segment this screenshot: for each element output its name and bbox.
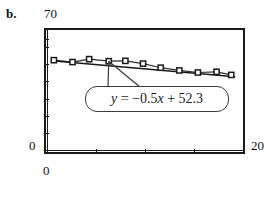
data-point-marker <box>177 68 182 73</box>
regression-equation-callout: y = −0.5x + 52.3 <box>85 86 229 112</box>
data-point-marker <box>87 57 92 62</box>
data-point-marker <box>214 69 219 74</box>
data-point-marker <box>195 70 200 75</box>
data-point-marker <box>140 61 145 66</box>
data-point-marker <box>123 58 128 63</box>
chart-figure: b. 70 0 0 20 y = −0.5x + 52.3 <box>0 0 276 197</box>
callout-pointer-edge <box>109 61 140 87</box>
data-point-marker <box>158 65 163 70</box>
data-point-marker <box>70 59 75 64</box>
data-point-marker <box>51 58 56 63</box>
regression-equation-text: y = −0.5x + 52.3 <box>111 91 203 107</box>
data-point-marker <box>229 72 234 77</box>
callout-pointer-edge <box>108 61 109 87</box>
